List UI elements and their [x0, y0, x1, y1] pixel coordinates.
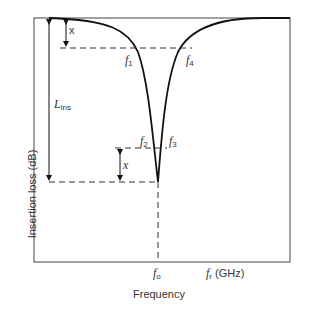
f4-label: f4	[186, 53, 194, 68]
f1-label: f1	[125, 53, 133, 68]
f2-label: f2	[140, 134, 148, 149]
fr-unit-label: fr (GHz)	[206, 266, 244, 281]
lins-label: Lins	[54, 97, 71, 112]
x-axis-label: Frequency	[133, 288, 185, 300]
bottom-x-label: x	[123, 158, 128, 173]
top-x-label: x	[69, 24, 75, 36]
fo-label: fo	[153, 266, 161, 281]
f3-label: f3	[169, 134, 177, 149]
insertion-loss-curve	[49, 18, 290, 182]
y-axis-label: Insertion loss (dB)	[26, 134, 38, 254]
